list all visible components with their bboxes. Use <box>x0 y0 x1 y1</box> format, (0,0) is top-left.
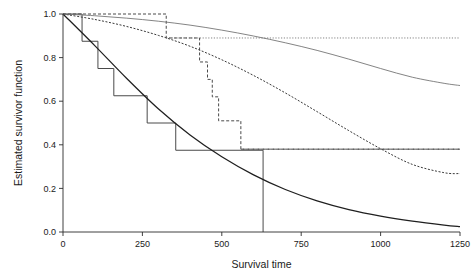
x-tick-label: 1000 <box>371 239 391 249</box>
x-tick-label: 0 <box>60 239 65 249</box>
y-tick-label: 1.0 <box>43 9 56 19</box>
x-axis-title: Survival time <box>231 258 291 270</box>
series-line-2: Fitted survivor curve group 1 (solid) <box>63 14 460 227</box>
series-line-1: Kaplan-Meier group 2 (dashed step) <box>63 14 460 149</box>
y-tick-label: 0.6 <box>43 96 56 106</box>
x-tick-label: 1250 <box>450 239 470 249</box>
x-tick-label: 250 <box>135 239 150 249</box>
x-tick-label: 750 <box>294 239 309 249</box>
y-tick-label: 0.4 <box>43 140 56 150</box>
axis-lines <box>63 14 460 232</box>
x-tick-label: 500 <box>214 239 229 249</box>
axes-layer <box>59 14 460 236</box>
series-line-0: Kaplan-Meier group 1 (solid step) <box>63 14 263 232</box>
data-series-layer: Kaplan-Meier group 1 (solid step)Kaplan-… <box>63 14 460 232</box>
chart-canvas: Kaplan-Meier group 1 (solid step)Kaplan-… <box>0 0 473 279</box>
y-tick-label: 0.8 <box>43 53 56 63</box>
y-tick-label: 0.2 <box>43 184 56 194</box>
survival-chart-figure: Kaplan-Meier group 1 (solid step)Kaplan-… <box>0 0 473 279</box>
y-tick-label: 0.0 <box>43 227 56 237</box>
axis-labels-layer: 0250500750100012500.00.20.40.60.81.0Surv… <box>12 9 470 270</box>
y-axis-title: Estimated survivor function <box>12 60 24 186</box>
